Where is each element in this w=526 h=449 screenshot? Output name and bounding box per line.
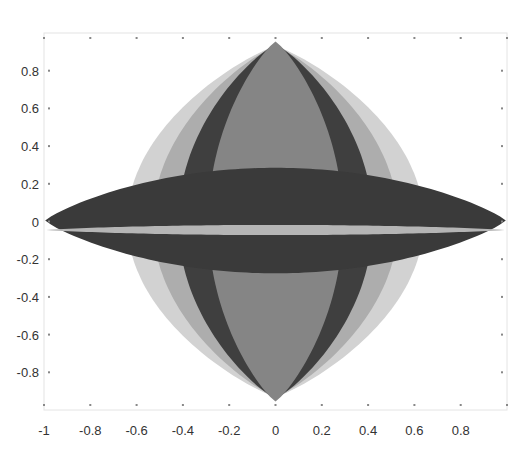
tick-mark [48, 258, 50, 260]
tick-mark [136, 404, 138, 406]
tick-mark [182, 37, 184, 39]
y-tick-label: 0.2 [21, 177, 39, 192]
tick-mark [501, 334, 503, 336]
x-tick-label: 0.4 [359, 423, 377, 438]
tick-mark [89, 37, 91, 39]
x-tick-label: -0.2 [218, 423, 240, 438]
tick-mark [321, 404, 323, 406]
tick-mark [48, 296, 50, 298]
y-tick-label: 0.6 [21, 101, 39, 116]
y-tick-label: 0.8 [21, 64, 39, 79]
tick-mark [501, 70, 503, 72]
tick-mark [367, 404, 369, 406]
tick-mark [48, 145, 50, 147]
tick-mark [228, 37, 230, 39]
tick-mark [501, 145, 503, 147]
tick-mark [501, 371, 503, 373]
tick-mark [501, 183, 503, 185]
horizontal-lens-dark [45, 168, 506, 273]
tick-mark [43, 37, 45, 39]
x-tick-label: 0 [272, 423, 279, 438]
y-axis-tick-labels: 0.80.60.40.20-0.2-0.4-0.6-0.8 [17, 64, 39, 381]
y-tick-label: -0.4 [17, 290, 39, 305]
y-tick-label: 0.4 [21, 139, 39, 154]
tick-mark [460, 37, 462, 39]
tick-mark [228, 404, 230, 406]
tick-mark [48, 70, 50, 72]
x-tick-label: 0.8 [452, 423, 470, 438]
x-tick-label: -0.8 [79, 423, 101, 438]
tick-mark [506, 37, 508, 39]
x-axis-tick-labels: -1-0.8-0.6-0.4-0.200.20.40.60.8 [38, 423, 470, 438]
tick-mark [506, 404, 508, 406]
tick-mark [501, 221, 503, 223]
chart-shapes [45, 42, 506, 402]
y-tick-label: -0.8 [17, 365, 39, 380]
tick-mark [501, 296, 503, 298]
x-tick-label: -1 [38, 423, 50, 438]
tick-mark [136, 37, 138, 39]
y-tick-label: -0.2 [17, 252, 39, 267]
tick-mark [43, 404, 45, 406]
tick-mark [275, 404, 277, 406]
tick-mark [275, 37, 277, 39]
y-tick-label: 0 [32, 215, 39, 230]
tick-mark [48, 107, 50, 109]
x-tick-label: -0.6 [125, 423, 147, 438]
x-tick-label: 0.2 [313, 423, 331, 438]
tick-mark [413, 37, 415, 39]
y-tick-label: -0.6 [17, 328, 39, 343]
tick-mark [413, 404, 415, 406]
chart-canvas: -1-0.8-0.6-0.4-0.200.20.40.60.8 0.80.60.… [0, 0, 526, 449]
tick-mark [48, 334, 50, 336]
tick-mark [501, 258, 503, 260]
tick-mark [501, 107, 503, 109]
tick-mark [89, 404, 91, 406]
x-tick-label: 0.6 [405, 423, 423, 438]
tick-mark [182, 404, 184, 406]
tick-mark [48, 221, 50, 223]
x-tick-label: -0.4 [172, 423, 194, 438]
tick-mark [321, 37, 323, 39]
tick-mark [48, 183, 50, 185]
tick-mark [48, 371, 50, 373]
tick-mark [367, 37, 369, 39]
tick-mark [460, 404, 462, 406]
